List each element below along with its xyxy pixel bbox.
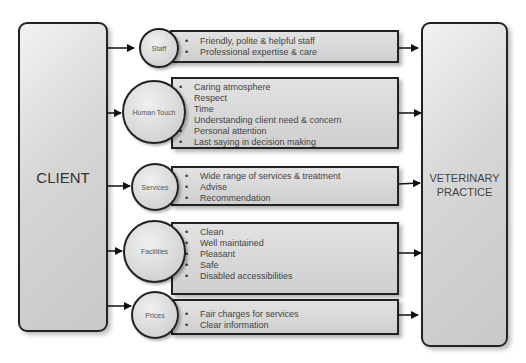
factor-circle-human-touch: Human Touch: [122, 80, 186, 144]
connector-arrows: [0, 0, 526, 363]
factor-circle-staff: Staff: [139, 28, 179, 68]
factor-label-prices: Prices: [145, 312, 164, 319]
factor-circle-services: Services: [131, 163, 179, 211]
factor-label-staff: Staff: [152, 45, 166, 52]
factor-circle-prices: Prices: [131, 291, 179, 339]
factor-circle-facilities: Facilities: [123, 220, 186, 283]
factor-label-facilities: Facilities: [141, 248, 168, 255]
factor-label-services: Services: [142, 184, 169, 191]
factor-label-human-touch: Human Touch: [132, 109, 175, 116]
